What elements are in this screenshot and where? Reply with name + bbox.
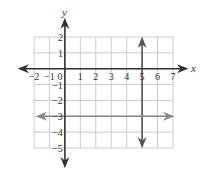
x-tick-label: 6 (155, 71, 160, 82)
x-tick-label: 3 (109, 71, 114, 82)
x-tick-label: 5 (140, 71, 145, 82)
x-tick-label: 1 (78, 71, 83, 82)
x-tick-label: 7 (171, 71, 176, 82)
y-tick-label: −1 (52, 80, 63, 91)
y-tick-label: −2 (52, 95, 63, 106)
x-axis-label: x (190, 62, 196, 74)
coordinate-plane: xy−2−10123456721−1−2−3−4−5 (0, 0, 200, 175)
y-tick-label: −4 (52, 127, 63, 138)
y-tick-label: −3 (52, 111, 63, 122)
y-axis-label: y (61, 6, 67, 18)
x-tick-label: 2 (93, 71, 98, 82)
x-tick-label: −2 (29, 71, 40, 82)
x-tick-label: 4 (124, 71, 129, 82)
axes (20, 20, 186, 166)
y-tick-label: 2 (58, 32, 63, 43)
y-tick-label: 1 (58, 48, 63, 59)
y-tick-label: −5 (52, 143, 63, 154)
